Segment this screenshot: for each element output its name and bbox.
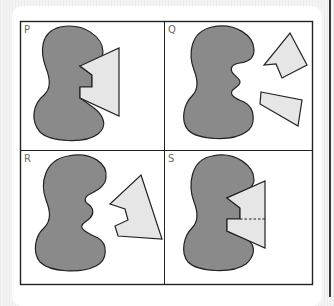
fragment-shape — [110, 175, 162, 239]
panel-q — [184, 26, 307, 139]
panel-label-q: Q — [168, 25, 176, 35]
panel-label-r: R — [24, 154, 31, 164]
panel-r — [35, 155, 162, 271]
blob-shape — [35, 155, 106, 271]
panel-p — [34, 26, 119, 141]
fragment-shape-upper — [264, 33, 307, 78]
panel-label-s: S — [168, 154, 174, 164]
panel-label-p: P — [24, 25, 30, 35]
panel-s — [184, 155, 265, 271]
fragment-shape-lower — [260, 92, 302, 126]
blob-shape — [184, 26, 254, 139]
